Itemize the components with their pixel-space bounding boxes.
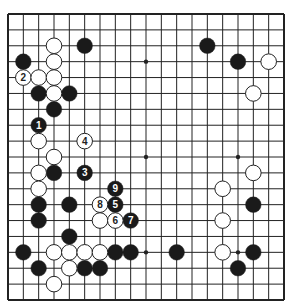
black-stone[interactable] <box>169 245 185 261</box>
black-stone[interactable] <box>200 38 216 54</box>
black-stone[interactable] <box>230 54 246 70</box>
white-stone[interactable]: 4 <box>77 133 93 149</box>
black-stone[interactable] <box>246 245 262 261</box>
white-stone[interactable] <box>31 70 47 86</box>
stone-disc <box>92 245 108 261</box>
white-stone[interactable] <box>46 245 62 261</box>
go-board[interactable]: 139572486 <box>0 0 295 307</box>
white-stone[interactable] <box>92 213 108 229</box>
stone-disc <box>46 149 62 165</box>
white-stone[interactable] <box>46 276 62 292</box>
stone-disc <box>108 245 124 261</box>
black-stone[interactable] <box>31 197 47 213</box>
white-stone[interactable] <box>31 181 47 197</box>
stone-disc <box>16 245 32 261</box>
go-board-canvas[interactable]: 139572486 <box>0 0 295 307</box>
white-stone[interactable] <box>92 245 108 261</box>
black-stone[interactable] <box>77 260 93 276</box>
stone-disc <box>77 245 93 261</box>
stone-disc <box>246 165 262 181</box>
black-stone[interactable] <box>16 245 32 261</box>
black-stone[interactable] <box>108 245 124 261</box>
move-number-label: 7 <box>128 215 134 226</box>
white-stone[interactable] <box>62 260 78 276</box>
white-stone[interactable]: 8 <box>92 197 108 213</box>
black-stone[interactable] <box>62 197 78 213</box>
star-point <box>144 155 148 159</box>
white-stone[interactable] <box>261 54 277 70</box>
move-number-label: 6 <box>113 215 119 226</box>
white-stone[interactable] <box>215 245 231 261</box>
stone-disc <box>169 245 185 261</box>
stone-disc <box>246 245 262 261</box>
white-stone[interactable] <box>31 165 47 181</box>
stone-disc <box>62 260 78 276</box>
white-stone[interactable] <box>215 213 231 229</box>
white-stone[interactable] <box>46 70 62 86</box>
white-stone[interactable] <box>46 149 62 165</box>
star-point <box>144 250 148 254</box>
move-number-label: 1 <box>36 120 42 131</box>
star-point <box>236 155 240 159</box>
stone-disc <box>31 165 47 181</box>
stone-disc <box>46 54 62 70</box>
stone-disc <box>62 197 78 213</box>
black-stone[interactable] <box>62 229 78 245</box>
black-stone[interactable] <box>46 102 62 118</box>
black-stone[interactable] <box>62 86 78 102</box>
black-stone[interactable] <box>246 197 262 213</box>
stone-disc <box>46 245 62 261</box>
move-number-label: 9 <box>113 183 119 194</box>
stone-disc <box>31 133 47 149</box>
stone-disc <box>31 197 47 213</box>
stone-disc <box>16 54 32 70</box>
stone-disc <box>246 86 262 102</box>
white-stone[interactable]: 6 <box>108 213 124 229</box>
stone-disc <box>246 197 262 213</box>
white-stone[interactable] <box>46 54 62 70</box>
black-stone[interactable] <box>31 213 47 229</box>
black-stone[interactable]: 7 <box>123 213 139 229</box>
white-stone[interactable] <box>77 245 93 261</box>
black-stone[interactable] <box>46 165 62 181</box>
white-stone[interactable] <box>62 245 78 261</box>
black-stone[interactable]: 1 <box>31 117 47 133</box>
black-stone[interactable]: 3 <box>77 165 93 181</box>
black-stone[interactable] <box>92 260 108 276</box>
black-stone[interactable] <box>16 54 32 70</box>
black-stone[interactable]: 5 <box>108 197 124 213</box>
stone-disc <box>215 213 231 229</box>
white-stone[interactable] <box>246 86 262 102</box>
white-stone[interactable] <box>246 165 262 181</box>
stone-disc <box>31 70 47 86</box>
white-stone[interactable]: 2 <box>16 70 32 86</box>
white-stone[interactable] <box>31 133 47 149</box>
black-stone[interactable] <box>31 86 47 102</box>
stone-disc <box>46 86 62 102</box>
stone-disc <box>92 213 108 229</box>
stone-disc <box>46 276 62 292</box>
stone-disc <box>123 245 139 261</box>
move-number-label: 5 <box>113 199 119 210</box>
black-stone[interactable]: 9 <box>108 181 124 197</box>
stone-disc <box>77 260 93 276</box>
stone-disc <box>200 38 216 54</box>
star-point <box>236 250 240 254</box>
black-stone[interactable] <box>77 38 93 54</box>
stone-disc <box>261 54 277 70</box>
stone-disc <box>46 38 62 54</box>
stone-disc <box>31 260 47 276</box>
move-number-label: 3 <box>82 167 88 178</box>
black-stone[interactable] <box>230 260 246 276</box>
stone-disc <box>215 245 231 261</box>
white-stone[interactable] <box>46 38 62 54</box>
move-number-label: 2 <box>21 72 27 83</box>
black-stone[interactable] <box>123 245 139 261</box>
stone-disc <box>92 260 108 276</box>
white-stone[interactable] <box>215 181 231 197</box>
black-stone[interactable] <box>31 260 47 276</box>
white-stone[interactable] <box>46 86 62 102</box>
move-number-label: 4 <box>82 136 88 147</box>
stone-disc <box>46 70 62 86</box>
move-number-label: 8 <box>97 199 103 210</box>
